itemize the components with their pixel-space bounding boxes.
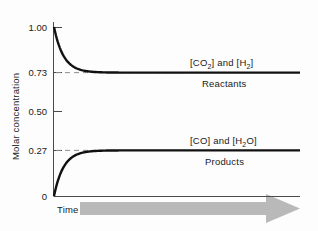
y-axis-title: Molar concentration [10,73,21,160]
y-tick-label-0-73: 0.73 [29,67,48,78]
series-line-products [54,150,300,196]
series-label-products-group: Products [205,156,244,167]
y-tick-label-1-00: 1.00 [29,22,48,33]
series-line-reactants [54,27,300,73]
y-tick-label-0-50: 0.50 [29,106,48,117]
time-arrow-icon [80,194,300,223]
equilibrium-line-chart: 1.00 0.73 0.50 0.27 0 Molar concentratio… [0,0,318,231]
series-label-products-formula: [CO] and [H2O] [190,135,257,148]
chart-figure: 1.00 0.73 0.50 0.27 0 Molar concentratio… [0,0,318,231]
series-label-reactants-formula: [CO2] and [H2] [190,57,253,70]
y-tick-label-0-27: 0.27 [29,145,48,156]
x-axis-title: Time [57,204,79,215]
y-tick-label-0: 0 [42,191,47,202]
series-label-reactants-group: Reactants [202,78,247,89]
